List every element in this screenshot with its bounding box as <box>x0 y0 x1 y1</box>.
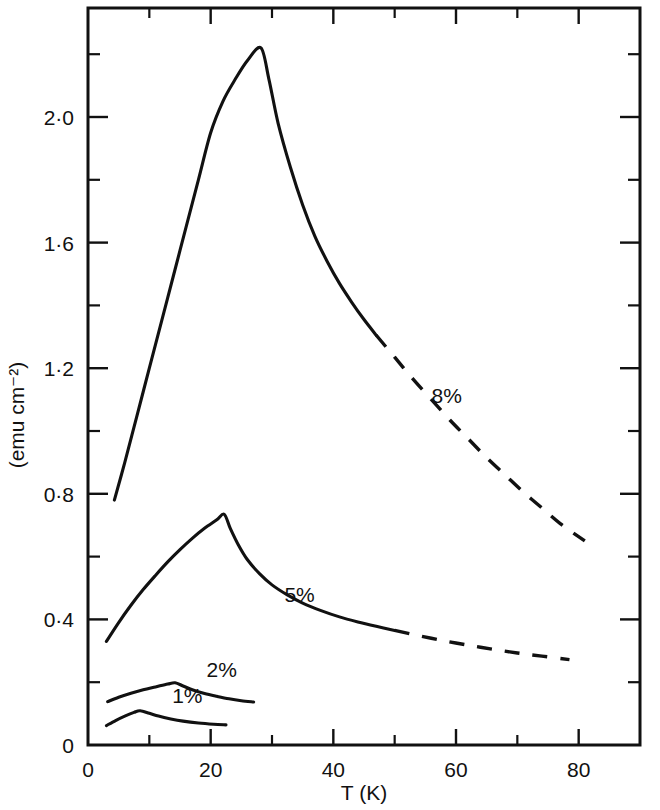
y-tick-label: 1·2 <box>44 357 74 380</box>
curve-8pct-solid <box>114 47 376 500</box>
axis-ticks <box>88 8 640 745</box>
y-tick-label: 0·4 <box>44 608 75 631</box>
magnetisation-temperature-chart: 02040608000·40·81·21·62·0 8%5%2%1% T (K)… <box>0 0 660 810</box>
x-axis-title: T (K) <box>341 781 387 804</box>
series-label-2pct: 2% <box>207 658 237 681</box>
plot-frame <box>88 8 640 745</box>
data-curves <box>106 47 584 725</box>
curve-5pct-dashed <box>395 630 570 659</box>
x-tick-label: 0 <box>82 758 94 781</box>
axis-tick-labels: 02040608000·40·81·21·62·0 <box>44 106 591 781</box>
y-tick-label: 1·6 <box>44 232 74 255</box>
x-tick-label: 20 <box>199 758 222 781</box>
y-axis-title: (emu cm⁻²) <box>5 362 28 469</box>
curve-5pct-solid <box>106 514 394 641</box>
x-tick-label: 40 <box>322 758 345 781</box>
y-tick-label: 0 <box>62 734 74 757</box>
series-label-8pct: 8% <box>432 384 462 407</box>
series-annotations: 8%5%2%1% <box>172 384 462 707</box>
x-tick-label: 60 <box>444 758 467 781</box>
y-tick-label: 0·8 <box>44 483 74 506</box>
figure-container: 02040608000·40·81·21·62·0 8%5%2%1% T (K)… <box>0 0 660 810</box>
series-label-5pct: 5% <box>284 583 314 606</box>
y-tick-label: 2·0 <box>44 106 74 129</box>
curve-1pct-solid <box>106 711 226 726</box>
series-label-1pct: 1% <box>172 684 202 707</box>
curve-8pct-dashed <box>376 335 585 541</box>
x-tick-label: 80 <box>567 758 590 781</box>
